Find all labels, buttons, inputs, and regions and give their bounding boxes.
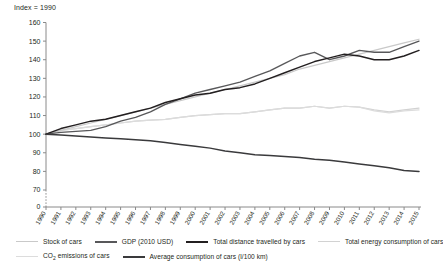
y-tick-label: 110 <box>29 112 40 119</box>
legend-item[interactable]: Total distance travelled by cars <box>186 238 305 245</box>
legend-label: Total distance travelled by cars <box>213 238 305 245</box>
y-tick-label: 130 <box>29 75 41 82</box>
legend-label: CO2 emissions of cars <box>43 252 110 261</box>
y-tick-label: 80 <box>33 168 41 175</box>
y-tick-label: 90 <box>33 149 41 156</box>
y-tick-label: 150 <box>29 38 41 45</box>
x-tick-label: 1996 <box>123 210 136 226</box>
x-tick-label: 1994 <box>93 210 106 226</box>
x-tick-label: 1995 <box>108 210 121 226</box>
legend-label: Total energy consumption of cars <box>345 238 443 245</box>
legend-item[interactable]: CO2 emissions of cars <box>16 252 110 261</box>
x-tick-label: 1997 <box>138 210 151 226</box>
x-tick-label: 2004 <box>243 210 256 226</box>
legend-label: GDP (2010 USD) <box>122 238 174 245</box>
y-tick-label: 140 <box>29 56 41 63</box>
y-tick-label: 160 <box>29 19 41 26</box>
x-tick-label: 2010 <box>332 210 345 226</box>
x-tick-label: 2000 <box>183 210 196 226</box>
x-tick-label: 1992 <box>64 210 77 226</box>
legend-swatch-icon <box>16 256 38 257</box>
legend-row-1: Stock of carsGDP (2010 USD)Total distanc… <box>0 234 428 249</box>
x-tick-label: 2013 <box>377 210 390 226</box>
legend-swatch-icon <box>186 241 208 243</box>
legend-label: Stock of cars <box>43 238 82 245</box>
x-tick-label: 2002 <box>213 210 226 226</box>
x-tick-label: 2005 <box>258 210 271 226</box>
x-tick-label: 1993 <box>79 210 92 226</box>
x-tick-label: 1990 <box>34 210 47 226</box>
x-tick-label: 2003 <box>228 210 241 226</box>
x-tick-label: 2007 <box>287 210 300 226</box>
x-tick-label: 2008 <box>302 210 315 226</box>
legend-item[interactable]: GDP (2010 USD) <box>95 238 174 245</box>
legend-swatch-icon <box>95 241 117 243</box>
x-tick-label: 2012 <box>362 210 375 226</box>
legend-item[interactable]: Total energy consumption of cars <box>318 238 443 245</box>
x-tick-label: 2006 <box>273 210 286 226</box>
x-tick-label: 1991 <box>49 210 62 226</box>
series-line-total-distance-travelled-by-cars <box>46 50 419 134</box>
legend-swatch-icon <box>16 241 38 242</box>
legend-swatch-icon <box>123 256 145 258</box>
x-tick-label: 2015 <box>407 210 420 226</box>
chart-legend: Stock of carsGDP (2010 USD)Total distanc… <box>0 234 428 264</box>
y-tick-label: 70 <box>33 186 41 193</box>
x-tick-label: 2009 <box>317 210 330 226</box>
legend-item[interactable]: Average consumption of cars (l/100 km) <box>123 253 268 260</box>
y-tick-label: 0 <box>37 203 41 210</box>
legend-swatch-icon <box>318 241 340 242</box>
x-tick-label: 2014 <box>392 210 405 226</box>
x-tick-label: 2001 <box>198 210 211 226</box>
y-tick-label: 120 <box>29 93 41 100</box>
series-line-average-consumption-of-cars-l-100-km <box>46 134 419 171</box>
legend-label: Average consumption of cars (l/100 km) <box>150 253 268 260</box>
x-tick-label: 1999 <box>168 210 181 226</box>
legend-row-2: CO2 emissions of carsAverage consumption… <box>0 249 428 264</box>
x-tick-label: 2011 <box>347 210 360 226</box>
x-tick-label: 1998 <box>153 210 166 226</box>
legend-item[interactable]: Stock of cars <box>16 238 82 245</box>
y-tick-label: 100 <box>29 131 41 138</box>
